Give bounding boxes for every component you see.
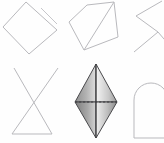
- zigzag-chevron-icon: [128, 0, 164, 60]
- shape-thumbnail-sheet: [0, 0, 164, 143]
- shape-cell-arch-outline-clipped: [130, 80, 164, 143]
- shape-cell-triangle-with-crossed-apex: [0, 62, 70, 143]
- tilted-quadrilateral-icon: [0, 0, 62, 60]
- shape-cell-pentagon-with-diagonal: [66, 0, 124, 60]
- shape-cell-tilted-quadrilateral: [0, 0, 62, 60]
- shape-cell-zigzag-chevron-clipped: [128, 0, 164, 60]
- arch-outline-icon: [130, 80, 164, 143]
- shape-cell-shaded-bipyramid: [74, 62, 122, 143]
- shaded-bipyramid-icon: [74, 62, 122, 143]
- triangle-crossed-apex-icon: [0, 62, 70, 143]
- pentagon-with-diagonal-icon: [66, 0, 124, 60]
